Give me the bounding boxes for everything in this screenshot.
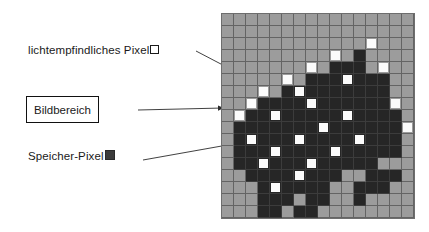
grid-cell-memory-pixel (306, 74, 318, 86)
grid-cell-memory-pixel (378, 86, 390, 98)
grid-cell-background (222, 26, 234, 38)
grid-cell-background (234, 26, 246, 38)
grid-cell-background (246, 74, 258, 86)
grid-cell-background (222, 50, 234, 62)
grid-cell-background (234, 50, 246, 62)
grid-cell-memory-pixel (258, 182, 270, 194)
grid-cell-memory-pixel (330, 98, 342, 110)
grid-cell-memory-pixel (378, 182, 390, 194)
grid-cell-background (402, 206, 414, 218)
grid-cell-background (402, 86, 414, 98)
grid-cell-background (234, 86, 246, 98)
grid-cell-background (270, 50, 282, 62)
grid-cell-background (402, 194, 414, 206)
grid-cell-memory-pixel (306, 194, 318, 206)
grid-cell-background (402, 38, 414, 50)
grid-cell-background (258, 74, 270, 86)
grid-cell-background (366, 50, 378, 62)
grid-cell-memory-pixel (270, 194, 282, 206)
grid-cell-background (234, 170, 246, 182)
grid-cell-light-pixel (258, 158, 270, 170)
grid-cell-background (402, 26, 414, 38)
grid-cell-memory-pixel (234, 158, 246, 170)
grid-cell-background (378, 26, 390, 38)
grid-cell-memory-pixel (330, 170, 342, 182)
grid-cell-memory-pixel (318, 194, 330, 206)
grid-cell-background (306, 38, 318, 50)
grid-cell-background (378, 50, 390, 62)
grid-cell-memory-pixel (234, 134, 246, 146)
grid-cell-memory-pixel (330, 62, 342, 74)
grid-cell-memory-pixel (354, 146, 366, 158)
label-image-area-box: Bildbereich (26, 96, 99, 123)
grid-cell-background (354, 38, 366, 50)
grid-cell-background (402, 110, 414, 122)
grid-cell-background (282, 62, 294, 74)
grid-cell-memory-pixel (366, 98, 378, 110)
grid-cell-memory-pixel (378, 122, 390, 134)
grid-cell-light-pixel (318, 122, 330, 134)
grid-cell-memory-pixel (318, 182, 330, 194)
grid-cell-background (222, 98, 234, 110)
grid-cell-background (390, 86, 402, 98)
grid-cell-background (234, 98, 246, 110)
grid-cell-background (342, 182, 354, 194)
grid-cell-memory-pixel (318, 110, 330, 122)
grid-cell-background (318, 38, 330, 50)
grid-cell-memory-pixel (270, 98, 282, 110)
grid-cell-background (318, 206, 330, 218)
grid-cell-memory-pixel (282, 122, 294, 134)
grid-cell-light-pixel (246, 98, 258, 110)
grid-cell-memory-pixel (258, 146, 270, 158)
grid-cell-memory-pixel (342, 86, 354, 98)
grid-cell-memory-pixel (366, 110, 378, 122)
grid-cell-background (330, 194, 342, 206)
grid-cell-light-pixel (390, 98, 402, 110)
grid-cell-background (342, 170, 354, 182)
grid-cell-memory-pixel (330, 86, 342, 98)
grid-cell-memory-pixel (282, 110, 294, 122)
grid-cell-memory-pixel (330, 158, 342, 170)
grid-cell-background (390, 14, 402, 26)
grid-cell-background (234, 14, 246, 26)
grid-cell-background (402, 62, 414, 74)
pixel-grid (222, 14, 414, 218)
grid-cell-background (222, 134, 234, 146)
grid-cell-memory-pixel (270, 206, 282, 218)
open-square-icon (150, 45, 159, 54)
filled-square-icon (105, 150, 115, 160)
grid-cell-background (378, 194, 390, 206)
grid-cell-background (282, 14, 294, 26)
grid-cell-background (330, 38, 342, 50)
grid-cell-memory-pixel (342, 98, 354, 110)
grid-cell-background (378, 14, 390, 26)
grid-cell-light-pixel (330, 50, 342, 62)
grid-cell-background (282, 38, 294, 50)
grid-cell-memory-pixel (318, 86, 330, 98)
grid-cell-memory-pixel (294, 182, 306, 194)
grid-cell-memory-pixel (306, 110, 318, 122)
grid-cell-memory-pixel (306, 86, 318, 98)
grid-cell-background (234, 194, 246, 206)
grid-cell-background (390, 50, 402, 62)
grid-cell-background (246, 194, 258, 206)
grid-cell-background (246, 38, 258, 50)
grid-cell-memory-pixel (318, 146, 330, 158)
grid-cell-background (246, 86, 258, 98)
grid-cell-background (330, 206, 342, 218)
grid-cell-background (330, 14, 342, 26)
grid-cell-memory-pixel (330, 134, 342, 146)
grid-cell-memory-pixel (234, 146, 246, 158)
grid-cell-background (222, 146, 234, 158)
grid-cell-memory-pixel (342, 62, 354, 74)
grid-cell-memory-pixel (270, 170, 282, 182)
grid-cell-memory-pixel (378, 170, 390, 182)
grid-cell-background (318, 62, 330, 74)
grid-cell-background (366, 62, 378, 74)
grid-cell-background (222, 86, 234, 98)
grid-cell-memory-pixel (318, 98, 330, 110)
grid-cell-memory-pixel (366, 170, 378, 182)
grid-cell-light-pixel (294, 86, 306, 98)
grid-cell-background (234, 182, 246, 194)
grid-cell-background (258, 26, 270, 38)
